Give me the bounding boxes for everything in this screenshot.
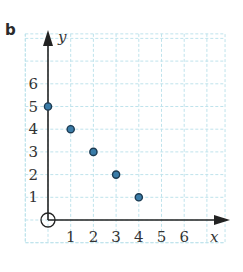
grid — [25, 34, 225, 243]
y-tick-label: 2 — [28, 166, 38, 184]
y-tick-label: 4 — [28, 120, 38, 138]
x-tick-label: 1 — [66, 228, 76, 246]
grid-border — [25, 34, 225, 243]
data-point — [113, 171, 120, 178]
data-point — [44, 103, 51, 110]
x-axis-label: x — [210, 228, 219, 246]
x-tick-label: 4 — [134, 228, 144, 246]
data-point — [90, 148, 97, 155]
x-tick-label: 5 — [157, 228, 167, 246]
data-point — [67, 126, 74, 133]
part-label: b — [5, 21, 16, 39]
x-tick-label: 6 — [179, 228, 189, 246]
data-point — [135, 194, 142, 201]
scatter-chart: b 123456123456 x y — [0, 0, 243, 272]
y-tick-label: 6 — [28, 75, 38, 93]
x-axis-arrow-icon — [214, 215, 230, 225]
y-tick-label: 3 — [28, 143, 38, 161]
x-tick-label: 3 — [111, 228, 121, 246]
y-axis-label: y — [57, 28, 67, 46]
x-tick-label: 2 — [89, 228, 99, 246]
y-tick-label: 5 — [28, 98, 38, 116]
y-tick-label: 1 — [28, 188, 38, 206]
